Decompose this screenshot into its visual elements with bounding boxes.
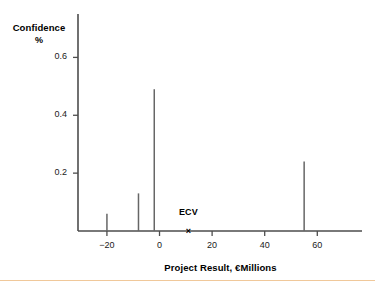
x-axis-title: Project Result, €Millions: [78, 262, 363, 273]
y-tick-label: 0.6: [41, 51, 67, 61]
ecv-marker-label: ECV: [168, 207, 208, 217]
bottom-divider: [0, 280, 375, 281]
chart-figure: Confidence % × Project Result, €Millions…: [0, 0, 375, 290]
x-tick-label: 0: [145, 240, 175, 250]
y-tick-label: 0.4: [41, 109, 67, 119]
x-tick-label: 20: [197, 240, 227, 250]
x-tick-label: −20: [92, 240, 122, 250]
x-tick-label: 40: [250, 240, 280, 250]
ecv-marker-glyph: ×: [186, 226, 191, 236]
y-tick-label: 0.2: [41, 167, 67, 177]
x-tick-label: 60: [302, 240, 332, 250]
